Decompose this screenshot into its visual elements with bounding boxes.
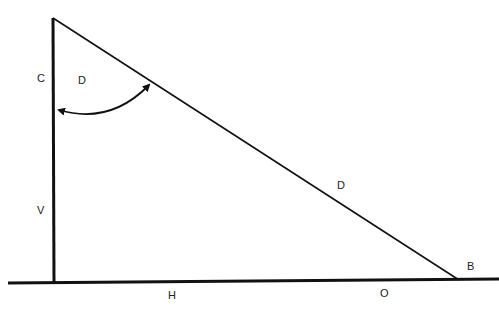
- label-b: B: [467, 260, 474, 272]
- label-o: O: [380, 287, 389, 299]
- label-angle-d: D: [78, 74, 86, 86]
- angle-arc-arrow: [59, 85, 149, 114]
- label-h: H: [168, 289, 176, 301]
- hypotenuse: [53, 18, 459, 280]
- label-c: C: [37, 72, 45, 84]
- label-v: V: [37, 204, 45, 216]
- vertical-side: [53, 18, 54, 283]
- triangle-diagram: C D D V H O B: [0, 0, 499, 312]
- baseline: [8, 279, 499, 283]
- label-hypotenuse-d: D: [337, 179, 345, 191]
